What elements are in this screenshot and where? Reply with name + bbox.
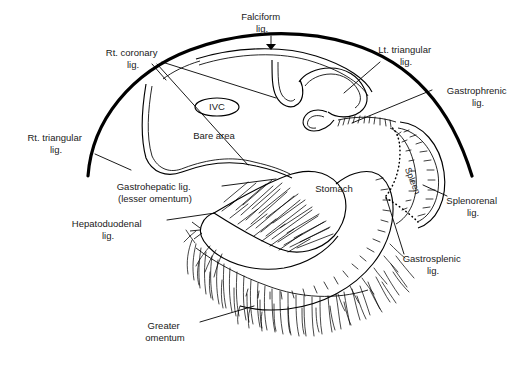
label-spleen: Spleen xyxy=(403,166,423,196)
rt-coronary-leader-b xyxy=(157,64,248,165)
label-rt-coronary: Rt. coronary lig. xyxy=(106,47,160,70)
gastrohepatic-leader xyxy=(222,179,276,186)
anatomy-diagram-canvas: Falciform lig. Rt. coronary lig. Lt. tri… xyxy=(0,0,516,375)
label-greater-omentum: Greater omentum xyxy=(145,320,185,343)
label-hepatoduodenal: Hepatoduodenal lig. xyxy=(72,218,144,241)
liver-outline xyxy=(142,49,372,178)
label-splenorenal: Splenorenal lig. xyxy=(446,195,499,218)
label-gastrohepatic: Gastrohepatic lig. (lesser omentum) xyxy=(117,181,194,204)
splenorenal-leader xyxy=(423,185,447,196)
leader-lines-group xyxy=(95,36,447,322)
gastrophrenic-ligament xyxy=(338,116,396,127)
label-falciform: Falciform lig. xyxy=(241,11,283,34)
diagram-svg: Falciform lig. Rt. coronary lig. Lt. tri… xyxy=(0,0,516,375)
label-ivc: IVC xyxy=(209,101,225,112)
label-lt-triangular: Lt. triangular lig. xyxy=(378,44,433,67)
label-rt-triangular: Rt. triangular lig. xyxy=(27,132,84,155)
label-gastrosplenic: Gastrosplenic lig. xyxy=(403,253,464,276)
gastrophrenic-leader xyxy=(352,90,432,123)
label-stomach: Stomach xyxy=(315,183,353,194)
label-gastrophrenic: Gastrophrenic lig. xyxy=(447,85,509,108)
rt-coronary-leader-c xyxy=(162,62,276,98)
gastrosplenic-leader xyxy=(386,197,404,254)
greater-curvature-band xyxy=(246,178,390,299)
labels-group: Falciform lig. Rt. coronary lig. Lt. tri… xyxy=(27,11,509,343)
rt-triangular-leader xyxy=(95,154,131,170)
label-bare-area: Bare area xyxy=(193,130,235,141)
